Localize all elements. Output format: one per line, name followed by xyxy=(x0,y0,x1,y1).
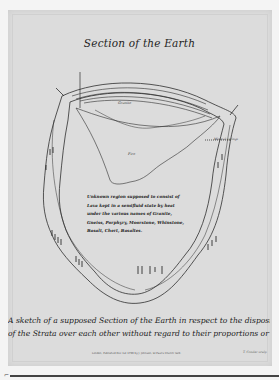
fire-region-outline xyxy=(76,108,220,184)
page-corner-mark: ⌐ xyxy=(4,371,9,378)
label-mineral-springs: Mineral springs xyxy=(214,137,238,141)
central-region-description: Unknown region supposed to consist of La… xyxy=(87,193,187,236)
page-edge-rule xyxy=(10,375,279,377)
label-granite-upper: Granite xyxy=(118,101,131,105)
caption-line-2: of the Strata over each other without re… xyxy=(8,329,270,338)
engraver-signature: T. Conder sculp xyxy=(243,350,267,354)
label-fire: Fire xyxy=(128,152,135,156)
publisher-imprint: London, Published Dec 1st 1799 by J. Joh… xyxy=(92,352,181,355)
caption-line-1: A sketch of a supposed Section of the Ea… xyxy=(8,316,270,325)
